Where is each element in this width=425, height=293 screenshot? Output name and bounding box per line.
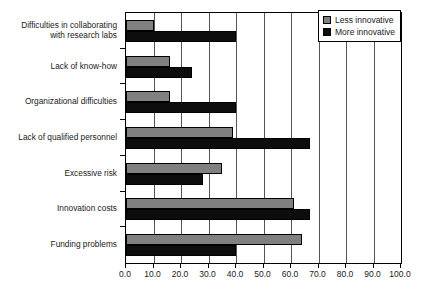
category-label: Lack of qualified personnel	[0, 132, 117, 142]
value-tick	[345, 263, 346, 268]
bar-more-innovative	[126, 67, 192, 78]
legend-label: Less innovative	[335, 15, 394, 26]
legend-label: More innovative	[335, 27, 395, 38]
chart-legend: Less innovative More innovative	[318, 10, 401, 42]
bar-less-innovative	[126, 56, 170, 67]
value-tick	[235, 263, 236, 268]
category-label: Difficulties in collaborating with resea…	[0, 20, 117, 40]
bar-more-innovative	[126, 209, 310, 220]
bar-less-innovative	[126, 163, 222, 174]
value-tick-label: 100.0	[380, 269, 420, 280]
value-tick	[290, 263, 291, 268]
legend-swatch-icon	[323, 16, 331, 24]
category-label: Lack of know-how	[0, 61, 117, 71]
bar-less-innovative	[126, 198, 294, 209]
value-tick	[208, 263, 209, 268]
bar-less-innovative	[126, 127, 233, 138]
bar-chart: Difficulties in collaborating with resea…	[0, 0, 425, 293]
value-tick	[373, 263, 374, 268]
category-label: Innovation costs	[0, 203, 117, 213]
category-label: Organizational difficulties	[0, 96, 117, 106]
category-label: Excessive risk	[0, 168, 117, 178]
bar-series-group	[126, 13, 401, 263]
legend-swatch-icon	[323, 28, 331, 36]
plot-area	[125, 12, 402, 264]
legend-item-more-innovative: More innovative	[323, 26, 395, 38]
value-tick	[318, 263, 319, 268]
category-axis-labels: Difficulties in collaborating with resea…	[0, 12, 121, 262]
bar-less-innovative	[126, 234, 302, 245]
value-tick	[153, 263, 154, 268]
bar-more-innovative	[126, 245, 236, 256]
bar-more-innovative	[126, 174, 203, 185]
bar-more-innovative	[126, 102, 236, 113]
bar-less-innovative	[126, 91, 170, 102]
value-tick	[400, 263, 401, 268]
value-tick	[263, 263, 264, 268]
legend-item-less-innovative: Less innovative	[323, 14, 395, 26]
bar-more-innovative	[126, 138, 310, 149]
value-tick	[180, 263, 181, 268]
value-axis-labels: 0.010.020.030.040.050.060.070.080.090.01…	[0, 269, 425, 283]
value-tick	[125, 263, 126, 268]
bar-less-innovative	[126, 20, 154, 31]
category-label: Funding problems	[0, 239, 117, 249]
bar-more-innovative	[126, 31, 236, 42]
